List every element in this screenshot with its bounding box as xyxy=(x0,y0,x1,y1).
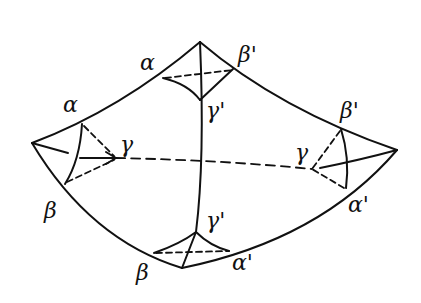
label-left-alpha: α xyxy=(63,92,78,117)
label-left-gamma: γ xyxy=(120,132,134,157)
left-dashed-alpha-gamma xyxy=(84,126,114,156)
label-bottom-gamma-prime: γ' xyxy=(206,208,225,233)
label-left-beta: β xyxy=(43,198,57,223)
edge-top-right xyxy=(200,42,397,150)
top-dashed-alpha-beta xyxy=(165,70,233,78)
bottom-arc-gamma-alpha xyxy=(196,232,229,251)
label-bottom-alpha-prime: α' xyxy=(232,250,253,275)
right-dashed-beta-gamma xyxy=(312,131,340,169)
label-top-gamma-prime: γ' xyxy=(206,98,225,123)
label-right-alpha-prime: α' xyxy=(348,192,369,217)
edge-left-top xyxy=(32,42,200,143)
label-top-beta-prime: β' xyxy=(237,42,257,67)
label-right-gamma: γ xyxy=(295,140,309,165)
horizontal-dashed-line xyxy=(116,158,312,169)
bottom-dashed-beta-alpha xyxy=(156,251,229,253)
right-inner-line xyxy=(320,150,397,168)
right-dashed-alpha-gamma xyxy=(312,169,344,188)
curved-quadrilateral-diagram: α β' γ' α γ β β' γ α' γ' β α' xyxy=(0,0,421,303)
left-arc-alpha-beta xyxy=(65,124,82,184)
top-arc-alpha-gamma xyxy=(163,78,200,100)
label-top-alpha: α xyxy=(140,50,155,75)
vertical-curve xyxy=(196,42,202,232)
label-right-beta-prime: β' xyxy=(339,98,359,123)
right-arc-beta-alpha xyxy=(341,129,347,188)
label-bottom-beta: β xyxy=(135,260,149,285)
